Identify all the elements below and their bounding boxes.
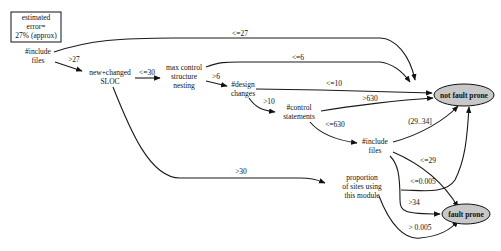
edge-label-le630: <=630 bbox=[325, 120, 345, 129]
leaf-label: fault prone bbox=[448, 210, 484, 219]
edge-label-le10: <=10 bbox=[326, 79, 342, 88]
node-label-line: changes bbox=[231, 89, 255, 98]
decision-tree-diagram: estimated error= 27% (approx) <=27 >27 <… bbox=[0, 0, 501, 251]
node-label-line: structure bbox=[171, 72, 198, 81]
node-label-line: of sites using bbox=[342, 182, 382, 191]
edge-label-gt34: >34 bbox=[408, 198, 420, 207]
node-label-line: nesting bbox=[173, 81, 195, 90]
node-proportion-sites: proportion of sites using this module bbox=[342, 173, 382, 200]
edge-design-to-notfault bbox=[256, 89, 432, 93]
edge-label-gt630: >630 bbox=[362, 94, 378, 103]
node-label-line: #include bbox=[362, 137, 388, 146]
edge-label-gt10: >10 bbox=[263, 97, 275, 106]
edge-label-29-34: (29..34] bbox=[408, 117, 432, 126]
edges: <=27 >27 <=30 >30 <=6 >6 <=10 >10 >630 <… bbox=[54, 29, 469, 238]
node-label-line: files bbox=[32, 56, 45, 65]
node-label-line: #design bbox=[231, 80, 255, 89]
edge-sloc-to-proportion bbox=[113, 87, 325, 183]
edge-label-gt27: >27 bbox=[68, 55, 80, 64]
node-control-statements: #control statements bbox=[283, 103, 315, 121]
node-label-line: new+changed bbox=[89, 68, 131, 77]
node-design-changes: #design changes bbox=[231, 80, 255, 98]
error-box-line-1: estimated bbox=[22, 13, 51, 22]
node-label-line: #include bbox=[25, 47, 51, 56]
edge-label-gt30: >30 bbox=[235, 167, 247, 176]
node-label-line: this module bbox=[344, 191, 380, 200]
node-include-files-1: #include files bbox=[25, 47, 51, 65]
node-max-control-nesting: max control structure nesting bbox=[166, 63, 202, 90]
node-label-line: #control bbox=[287, 103, 312, 112]
edge-label-le27: <=27 bbox=[232, 29, 248, 38]
leaf-fault-prone: fault prone bbox=[442, 204, 490, 224]
leaf-not-fault-prone: not fault prone bbox=[434, 84, 494, 106]
node-label-line: statements bbox=[283, 112, 315, 121]
leaf-label: not fault prone bbox=[440, 91, 488, 100]
node-label-line: files bbox=[369, 146, 382, 155]
node-label-line: proportion bbox=[346, 173, 378, 182]
node-include-files-2: #include files bbox=[362, 137, 388, 155]
edge-maxctrl-to-design bbox=[206, 81, 227, 86]
edge-maxctrl-to-notfault bbox=[206, 62, 410, 82]
node-label-line: max control bbox=[166, 63, 202, 72]
error-box-line-3: 27% (approx) bbox=[15, 31, 57, 40]
edge-label-le30: <=30 bbox=[139, 68, 155, 77]
edge-label-le6: <=6 bbox=[292, 53, 304, 62]
estimated-error-box: estimated error= 27% (approx) bbox=[11, 12, 61, 42]
edge-label-gt6: >6 bbox=[212, 72, 220, 81]
node-label-line: SLOC bbox=[100, 77, 119, 86]
error-box-line-2: error= bbox=[27, 22, 46, 31]
edge-label-le29: <=29 bbox=[420, 156, 436, 165]
edge-label-le0005: <=0.005 bbox=[410, 177, 436, 186]
node-new-changed-sloc: new+changed SLOC bbox=[89, 68, 131, 86]
edge-label-gt0005: > 0.005 bbox=[409, 223, 432, 232]
